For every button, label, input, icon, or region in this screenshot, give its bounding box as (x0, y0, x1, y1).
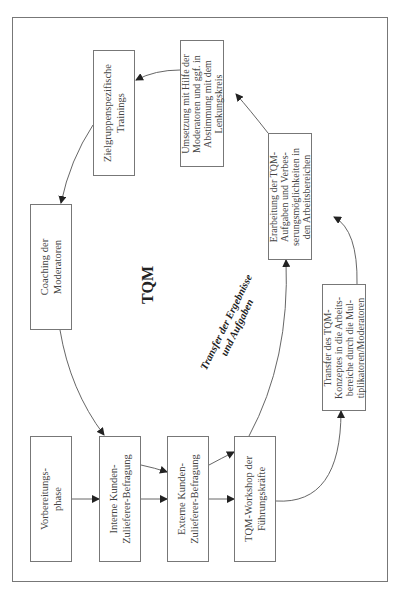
box-vorbereitungsphase: Vorbereitungs- phase (30, 436, 72, 562)
box-label: Transfer des TQM- Konzeptes in die Arbei… (322, 297, 366, 399)
box-label: Externe Kunden- Zulieferer-Befragung (176, 454, 201, 544)
box-transfer-konzept: Transfer des TQM- Konzeptes in die Arbei… (322, 284, 366, 411)
diagram-title: TQM (139, 266, 157, 304)
box-label: Zielgruppenspezifische Trainings (102, 64, 127, 162)
box-erarbeitung: Erarbeitung der TQM- Aufgaben und Verbes… (268, 133, 312, 260)
box-label: Coaching der Moderatoren (39, 239, 64, 295)
box-tqm-workshop: TQM-Workshop der Führungskräfte (234, 436, 276, 562)
box-interne-befragung: Interne Kunden- Zulieferer-Befragung (99, 436, 141, 562)
box-coaching: Coaching der Moderatoren (30, 204, 72, 330)
box-label: Vorbereitungs- phase (39, 468, 64, 530)
box-externe-befragung: Externe Kunden- Zulieferer-Befragung (167, 436, 209, 562)
box-label: Erarbeitung der TQM- Aufgaben und Verbes… (268, 147, 312, 245)
box-label: Interne Kunden- Zulieferer-Befragung (108, 454, 133, 544)
box-label: TQM-Workshop der Führungskräfte (243, 456, 268, 542)
box-zielgruppen-trainings: Zielgruppenspezifische Trainings (93, 50, 135, 176)
box-label: Umsetzung mit Hilfe der Moderatoren und … (180, 54, 224, 154)
box-umsetzung: Umsetzung mit Hilfe der Moderatoren und … (180, 40, 224, 167)
